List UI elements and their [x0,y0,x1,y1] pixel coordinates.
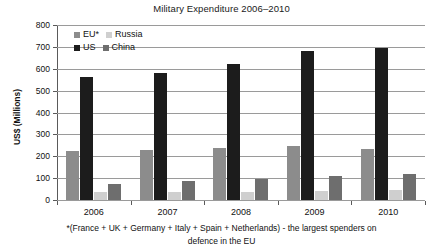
bar-us-2007[interactable] [154,73,167,200]
bar-us-2010[interactable] [375,48,388,200]
y-axis-tick-labels: 8007006005004003002001000 [0,0,50,252]
x-axis-tick-mark [351,201,352,205]
x-axis-tick-mark [131,201,132,205]
bar-us-2006[interactable] [80,77,93,200]
x-axis-tick-mark [425,201,426,205]
legend-swatch-icon [74,45,80,51]
military-expenditure-bar-chart: Military Expenditure 2006–2010 US$ (Mill… [0,0,443,252]
y-axis-tick-label: 300 [6,130,50,139]
bar-us-2008[interactable] [227,64,240,200]
bar-eu-2009[interactable] [287,146,300,200]
y-axis-tick-label: 200 [6,152,50,161]
legend-entry-us[interactable]: US [74,43,96,52]
legend-swatch-icon [106,32,112,38]
x-axis-tick-mark [57,201,58,205]
y-axis-tick-mark [53,178,57,179]
footnote-line-2: defence in the EU [0,235,443,248]
bar-china-2010[interactable] [403,174,416,200]
bar-russia-2007[interactable] [168,192,181,200]
bar-russia-2010[interactable] [389,190,402,200]
legend-row: EU*Russia [74,28,150,41]
legend-swatch-icon [74,32,80,38]
legend-label: Russia [115,30,143,39]
y-axis-tick-label: 500 [6,87,50,96]
y-axis-tick-mark [53,134,57,135]
legend-label: US [83,43,96,52]
y-axis-tick-label: 800 [6,21,50,30]
y-axis-tick-mark [53,156,57,157]
legend-swatch-icon [103,45,109,51]
footnote-line-1: *(France + UK + Germany + Italy + Spain … [0,222,443,235]
bar-eu-2008[interactable] [213,148,226,200]
y-axis-tick-mark [53,25,57,26]
bar-china-2008[interactable] [255,179,268,200]
bar-china-2006[interactable] [108,184,121,200]
bar-us-2009[interactable] [301,51,314,200]
bar-russia-2008[interactable] [241,192,254,200]
y-axis-tick-label: 100 [6,174,50,183]
legend-entry-china[interactable]: China [103,43,136,52]
bar-eu-2006[interactable] [66,151,79,200]
bar-china-2009[interactable] [329,176,342,201]
bar-group [204,25,278,200]
legend-label: EU* [83,30,99,39]
x-axis-tick-label-2006: 2006 [57,207,131,217]
chart-legend: EU*RussiaUSChina [74,28,150,54]
bar-group [278,25,352,200]
legend-entry-russia[interactable]: Russia [106,30,143,39]
x-axis-tick-mark [278,201,279,205]
y-axis-tick-mark [53,47,57,48]
bar-eu-2010[interactable] [361,149,374,200]
x-axis-tick-label-2008: 2008 [204,207,278,217]
bar-russia-2009[interactable] [315,191,328,200]
bar-group [351,25,425,200]
y-axis-tick-mark [53,113,57,114]
y-axis-tick-label: 0 [6,196,50,205]
legend-label: China [112,43,136,52]
legend-entry-eu[interactable]: EU* [74,30,99,39]
bar-russia-2006[interactable] [94,192,107,200]
legend-row: USChina [74,41,150,54]
x-axis-tick-label-2009: 2009 [278,207,352,217]
bar-china-2007[interactable] [182,181,195,200]
x-axis-tick-label-2007: 2007 [131,207,205,217]
bar-eu-2007[interactable] [140,150,153,200]
gridline [57,200,425,201]
y-axis-tick-label: 600 [6,65,50,74]
y-axis-tick-mark [53,91,57,92]
chart-title: Military Expenditure 2006–2010 [0,3,443,14]
chart-footnote: *(France + UK + Germany + Italy + Spain … [0,222,443,247]
x-axis-tick-mark [204,201,205,205]
x-axis-tick-label-2010: 2010 [351,207,425,217]
y-axis-tick-label: 700 [6,43,50,52]
y-axis-tick-label: 400 [6,109,50,118]
y-axis-tick-mark [53,69,57,70]
